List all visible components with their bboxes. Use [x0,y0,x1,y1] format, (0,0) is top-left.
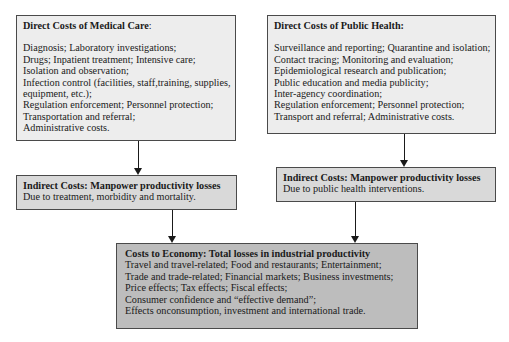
indirect-public-box: Indirect Costs: Manpower productivity lo… [276,167,496,202]
connector-indirect-public-to-economy [355,202,356,237]
medical-care-item: Transportation and referral; [23,111,229,122]
medical-care-item: equipment, etc.); [23,88,229,99]
connector-public-to-indirect [404,134,405,161]
arrow-down-icon [168,236,176,243]
arrow-down-icon [400,160,408,167]
medical-care-item: Administrative costs. [23,122,229,133]
connector-indirect-medical-to-economy [172,210,173,237]
public-health-item: Public education and media publicity; [274,77,489,88]
public-health-item: Epidemiological research and publication… [274,65,489,76]
medical-care-item: Infection control (facilities, staff,tra… [23,77,229,88]
indirect-public-description: Due to public health interventions. [283,183,489,194]
medical-care-title-line: Direct Costs of Medical Care: [23,20,229,31]
medical-care-title: Direct Costs of Medical Care [23,20,149,31]
public-health-item: Surveillance and reporting; Quarantine a… [274,42,489,53]
medical-care-item: Isolation and observation; [23,65,229,76]
public-health-item: Transport and referral; Administrative c… [274,111,489,122]
medical-care-item: Regulation enforcement; Personnel protec… [23,99,229,110]
indirect-medical-title-line: Indirect Costs: Manpower productivity lo… [23,180,230,191]
medical-care-item: Drugs; Inpatient treatment; Intensive ca… [23,54,229,65]
connector-medical-to-indirect [138,141,139,169]
direct-public-health-box: Direct Costs of Public Health: Surveilla… [267,15,496,134]
direct-medical-care-box: Direct Costs of Medical Care: Diagnosis;… [16,15,236,141]
arrow-down-icon [351,236,359,243]
costs-to-economy-box: Costs to Economy: Total losses in indust… [116,243,418,329]
economy-item: Effects onconsumption, investment and in… [125,305,409,316]
indirect-medical-description: Due to treatment, morbidity and mortalit… [23,191,230,202]
economy-item: Consumer confidence and “effective deman… [125,294,409,305]
public-health-title: Direct Costs of Public Health: [274,20,489,31]
medical-care-item: Diagnosis; Laboratory investigations; [23,42,229,53]
public-health-item: Inter-agency coordination; [274,88,489,99]
public-health-item: Regulation enforcement; Personnel protec… [274,99,489,110]
economy-item: Travel and travel-related; Food and rest… [125,259,409,270]
indirect-public-title: Indirect Costs: Manpower productivity lo… [283,172,489,183]
public-health-item: Contact tracing; Monitoring and evaluati… [274,54,489,65]
economy-item: Price effects; Tax effects; Fiscal effec… [125,282,409,293]
economy-item: Trade and trade-related; Financial marke… [125,271,409,282]
indirect-medical-box: Indirect Costs: Manpower productivity lo… [16,175,237,210]
economy-title: Costs to Economy: Total losses in indust… [125,248,409,259]
arrow-down-icon [134,168,142,175]
